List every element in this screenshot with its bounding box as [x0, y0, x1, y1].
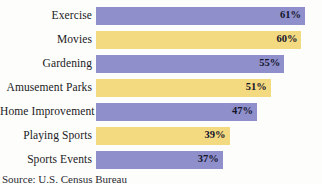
bar-value-label: 60%	[276, 34, 301, 45]
bar-track: 60%	[96, 28, 322, 52]
bar-track: 51%	[96, 76, 322, 100]
bar-track: 61%	[96, 4, 322, 28]
bar-chart: Exercise 61% Movies 60% Gardening 55%	[0, 0, 322, 184]
bar-track: 39%	[96, 124, 322, 148]
category-label: Exercise	[0, 10, 96, 22]
bar[interactable]: 39%	[96, 127, 230, 145]
category-label: Sports Events	[0, 154, 96, 166]
source-note: Source: U.S. Census Bureau	[2, 174, 127, 184]
chart-row: Exercise 61%	[0, 4, 322, 28]
bar[interactable]: 51%	[96, 79, 271, 97]
category-label: Gardening	[0, 58, 96, 70]
chart-row: Sports Events 37%	[0, 148, 322, 172]
bar-track: 47%	[96, 100, 322, 124]
chart-row: Playing Sports 39%	[0, 124, 322, 148]
category-label: Movies	[0, 34, 96, 46]
bar[interactable]: 61%	[96, 7, 305, 25]
bar-value-label: 37%	[198, 154, 223, 165]
bar-track: 37%	[96, 148, 322, 172]
bar-value-label: 61%	[280, 10, 305, 21]
category-label: Amusement Parks	[0, 82, 96, 94]
category-label: Playing Sports	[0, 130, 96, 142]
category-label: Home Improvement	[0, 106, 96, 118]
bar[interactable]: 37%	[96, 151, 223, 169]
bar-track: 55%	[96, 52, 322, 76]
bar-value-label: 51%	[246, 82, 271, 93]
bar-value-label: 55%	[259, 58, 284, 69]
bar[interactable]: 60%	[96, 31, 301, 49]
bar-value-label: 47%	[232, 106, 257, 117]
chart-row: Movies 60%	[0, 28, 322, 52]
chart-row: Gardening 55%	[0, 52, 322, 76]
chart-row: Amusement Parks 51%	[0, 76, 322, 100]
bar[interactable]: 47%	[96, 103, 257, 121]
bar[interactable]: 55%	[96, 55, 284, 73]
chart-row: Home Improvement 47%	[0, 100, 322, 124]
chart-plot-area: Exercise 61% Movies 60% Gardening 55%	[0, 4, 322, 172]
bar-value-label: 39%	[205, 130, 230, 141]
